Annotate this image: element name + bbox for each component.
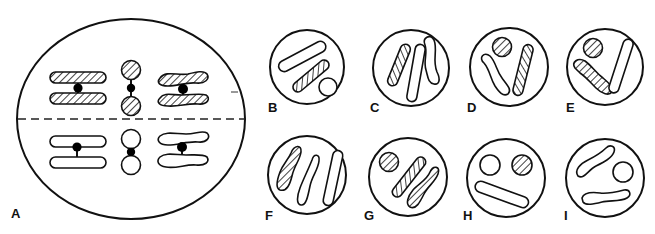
panel-g-gamete bbox=[369, 138, 447, 216]
centromere bbox=[127, 84, 135, 92]
panel-label-b: B bbox=[268, 101, 277, 114]
chromosome-pair-wavy-hatched bbox=[158, 72, 208, 106]
gamete-membrane bbox=[467, 139, 545, 217]
panel-label-a: A bbox=[11, 207, 20, 220]
chromosome-pair-straight-open bbox=[50, 136, 106, 168]
panel-label-f: F bbox=[265, 209, 273, 222]
panel-i-gamete bbox=[566, 139, 644, 217]
panel-a-cell bbox=[17, 19, 245, 219]
panel-e-gamete bbox=[567, 29, 643, 105]
chromosome-pair-wavy-open bbox=[158, 132, 209, 168]
chromosome-figure: A B C D E F G H I bbox=[0, 0, 655, 234]
panel-label-g: G bbox=[364, 209, 374, 222]
panel-label-i: I bbox=[564, 209, 568, 222]
panel-label-d: D bbox=[467, 101, 476, 114]
panel-b-gamete bbox=[270, 30, 344, 104]
panel-d-gamete bbox=[470, 28, 548, 106]
centromere bbox=[72, 142, 81, 151]
panel-f-gamete bbox=[268, 136, 346, 214]
centromere bbox=[127, 148, 135, 156]
panel-label-e: E bbox=[566, 101, 575, 114]
centromere bbox=[178, 84, 188, 94]
panel-h-gamete bbox=[467, 139, 545, 217]
chromosome-pair-round-open bbox=[122, 130, 141, 175]
panel-c-gamete bbox=[373, 30, 449, 106]
figure-canvas bbox=[0, 0, 655, 234]
centromere bbox=[73, 83, 82, 92]
centromere bbox=[177, 142, 187, 152]
panel-label-c: C bbox=[370, 101, 379, 114]
panel-label-h: H bbox=[463, 209, 472, 222]
chromosome-pair-round-hatched bbox=[122, 61, 141, 116]
chromosome-pair-straight-hatched bbox=[50, 72, 106, 104]
